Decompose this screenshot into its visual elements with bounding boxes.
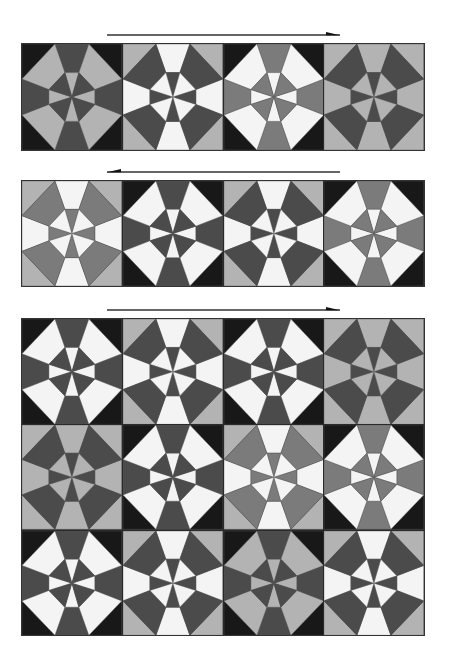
octagon-star-tile — [224, 424, 325, 529]
octagon-star-tile — [224, 530, 325, 635]
octagon-star-tile — [123, 424, 224, 529]
direction-arrow-right — [107, 305, 340, 315]
tile-panel-2 — [21, 180, 425, 287]
direction-arrow-right — [107, 30, 340, 40]
tile-row — [22, 530, 424, 635]
octagon-star-tile — [123, 530, 224, 635]
arrowhead-icon — [326, 32, 340, 35]
tile-row — [22, 319, 424, 424]
octagon-star-tile — [123, 181, 224, 286]
octagon-star-tile — [324, 319, 424, 424]
octagon-star-tile — [324, 424, 424, 529]
octagon-star-tile — [22, 424, 123, 529]
tile-row — [22, 424, 424, 529]
octagon-star-tile — [123, 44, 224, 150]
tile-panel-3 — [21, 318, 425, 636]
octagon-star-tile — [22, 319, 123, 424]
octagon-star-tile — [224, 319, 325, 424]
octagon-star-tile — [324, 530, 424, 635]
octagon-star-tile — [224, 181, 325, 286]
arrowhead-icon — [107, 169, 121, 172]
octagon-star-tile — [324, 181, 424, 286]
direction-arrow-left — [107, 167, 340, 177]
tile-panel-1 — [21, 43, 425, 151]
octagon-star-tile — [22, 44, 123, 150]
octagon-star-tile — [22, 181, 123, 286]
tile-row — [22, 44, 424, 150]
octagon-star-tile — [22, 530, 123, 635]
octagon-star-tile — [224, 44, 325, 150]
octagon-star-tile — [324, 44, 424, 150]
tile-row — [22, 181, 424, 286]
octagon-star-tile — [123, 319, 224, 424]
